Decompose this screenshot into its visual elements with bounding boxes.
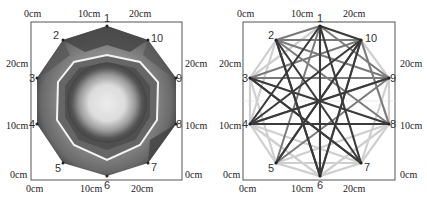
node-label-9: 9 [176,73,182,84]
axis-label-bottom-10: 10cm [80,184,102,194]
tomography-panel: 0cm 10cm 20cm 0cm 10cm 20cm 20cm 10cm 0c… [0,0,213,199]
axis-label-top-0: 0cm [24,9,41,19]
axis-label-left-0: 0cm [223,170,240,180]
axis-label-left-10: 10cm [6,121,28,131]
node-label-9: 9 [390,73,396,84]
node-label-4: 4 [242,119,248,130]
node-label-1: 1 [317,13,323,24]
node-label-7: 7 [151,162,157,173]
node-label-1: 1 [104,13,110,24]
node-label-5: 5 [268,163,274,174]
axis-label-top-10: 10cm [291,9,313,19]
node-label-3: 3 [29,73,35,84]
axis-label-left-20: 20cm [6,59,28,69]
node-label-7: 7 [364,162,370,173]
axis-label-right-10: 10cm [185,121,207,131]
node-label-2: 2 [268,30,274,41]
axis-label-top-20: 20cm [343,9,365,19]
node-label-6: 6 [317,180,323,191]
node-label-8: 8 [176,119,182,130]
axis-label-right-0: 0cm [185,170,202,180]
axis-label-bottom-20: 20cm [343,184,365,194]
axis-label-bottom-10: 10cm [291,184,313,194]
axis-label-left-0: 0cm [10,170,27,180]
axis-label-right-0: 0cm [400,170,417,180]
node-label-5: 5 [55,163,61,174]
node-label-8: 8 [390,119,396,130]
tomography-image [0,0,213,199]
axis-label-left-10: 10cm [219,121,241,131]
network-diagram [213,0,427,199]
node-label-10: 10 [365,33,377,44]
node-label-3: 3 [242,73,248,84]
node-label-2: 2 [53,30,59,41]
axis-label-right-10: 10cm [400,121,422,131]
node-label-10: 10 [151,33,163,44]
axis-label-right-20: 20cm [400,59,422,69]
axis-label-bottom-0: 0cm [239,184,256,194]
node-label-4: 4 [29,119,35,130]
axis-label-right-20: 20cm [185,59,207,69]
axis-label-top-10: 10cm [78,9,100,19]
axis-label-left-20: 20cm [219,59,241,69]
node-label-6: 6 [104,180,110,191]
axis-label-bottom-20: 20cm [131,184,153,194]
network-panel: 0cm 10cm 20cm 0cm 10cm 20cm 20cm 10cm 0c… [213,0,426,199]
axis-label-top-0: 0cm [237,9,254,19]
axis-label-top-20: 20cm [129,9,151,19]
axis-label-bottom-0: 0cm [26,184,43,194]
